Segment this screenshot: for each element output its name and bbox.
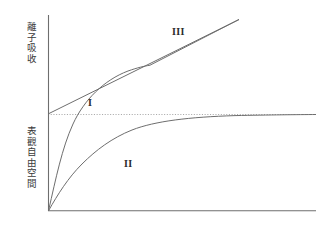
region-label-one: I [88,97,92,108]
figure-background [0,0,317,226]
y-axis-label-ion-absorption: 離子吸收 [26,22,36,64]
region-label-two: II [124,158,133,169]
region-label-three: III [172,26,185,37]
figure-canvas [0,0,317,226]
y-axis-label-apparent-free-space: 表觀自由空間 [26,126,36,189]
